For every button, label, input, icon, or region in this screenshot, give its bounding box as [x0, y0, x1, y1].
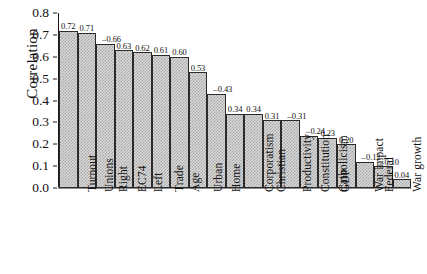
x-label-slot: Urban [189, 190, 208, 274]
x-axis-tick-label: Urban [213, 163, 225, 192]
x-axis-tick-label: GDP [340, 169, 352, 192]
bar-slot: 0.72 [59, 13, 78, 188]
y-axis-tick-mark [53, 100, 57, 101]
bar-value-label: 0.04 [395, 171, 409, 180]
y-axis-tick-mark [53, 13, 57, 14]
x-label-slot: War growth [375, 190, 394, 274]
bar-value-label: 0.31 [265, 112, 279, 121]
y-axis-tick-label: 0.6 [32, 49, 49, 65]
bar[interactable]: 0.53 [189, 72, 208, 188]
bar-value-label: 0.60 [172, 48, 186, 57]
y-axis-tick-mark [53, 78, 57, 79]
x-label-slot: Home [208, 190, 227, 274]
chart-figure: Correlation 0.80.70.60.50.40.30.20.10.0 … [0, 0, 427, 274]
y-axis-tick-mark [53, 34, 57, 35]
x-label-slot: Corporatism [226, 190, 245, 274]
y-axis-tick-mark [53, 144, 57, 145]
bar-slot: 0.43 [207, 13, 226, 188]
x-label-slot: Christian [245, 190, 264, 274]
x-axis-tick-label: Right [118, 166, 130, 192]
x-axis-tick-label: Home [231, 163, 243, 192]
x-label-slot: Age [170, 190, 189, 274]
y-axis-tick-mark [53, 166, 57, 167]
x-axis-tick-label: Federal [383, 157, 395, 192]
bar-value-label: 0.71 [80, 24, 94, 33]
y-axis-tick-labels: 0.80.70.60.50.40.30.20.10.0 [0, 0, 58, 274]
bar-slot: 0.53 [189, 13, 208, 188]
y-axis-tick-label: 0.0 [32, 180, 49, 196]
x-axis-tick-label: Christian [276, 149, 288, 192]
bar-slot: 0.63 [115, 13, 134, 188]
bar-value-label: 0.63 [117, 42, 131, 51]
y-axis-tick-label: 0.1 [32, 158, 49, 174]
x-label-slot: Productivity [263, 190, 282, 274]
y-axis-tick-label: 0.7 [32, 27, 49, 43]
y-axis-tick-label: 0.8 [32, 5, 49, 21]
x-label-slot: Unions [78, 190, 97, 274]
x-axis-tick-label: Unions [104, 158, 116, 192]
bar-value-label: 0.34 [246, 105, 260, 114]
x-label-slot: GDP [319, 190, 338, 274]
bar[interactable]: 0.04 [393, 179, 412, 188]
x-label-slot: Catholicism [301, 190, 320, 274]
x-axis-tick-label: War growth [412, 137, 424, 192]
y-axis-tick-mark [53, 122, 57, 123]
y-axis-tick-label: 0.5 [32, 71, 49, 87]
x-axis-tick-label: Productivity [302, 134, 314, 192]
x-axis-tick-label: Constitution [320, 134, 332, 192]
y-axis-tick-label: 0.4 [32, 93, 49, 109]
bar-value-label: 0.53 [191, 64, 205, 73]
x-axis-tick-label: Trade [175, 165, 187, 192]
x-axis-tick-label: Turnout [87, 155, 99, 192]
x-label-slot: Turnout [59, 190, 78, 274]
x-label-slot: Right [96, 190, 115, 274]
x-label-slot: Cath. culture [393, 190, 412, 274]
bar[interactable]: 0.72 [59, 31, 78, 189]
bar[interactable]: 0.61 [152, 55, 171, 188]
x-axis-tick-label: EC74 [137, 165, 149, 192]
x-label-slot: Constitution [282, 190, 301, 274]
bar[interactable]: 0.12 [356, 162, 375, 188]
x-axis-category-labels: TurnoutUnionsRightEC74LeftTradeAgeUrbanH… [59, 190, 412, 274]
y-axis-tick-mark [53, 188, 57, 189]
bar[interactable]: 0.34 [244, 114, 263, 188]
bar-value-label: 0.61 [154, 46, 168, 55]
bar-slot: 0.62 [133, 13, 152, 188]
bar-slot: 0.12 [356, 13, 375, 188]
bar-value-label: 0.62 [135, 44, 149, 53]
x-label-slot: Left [133, 190, 152, 274]
y-axis-tick-label: 0.2 [32, 136, 49, 152]
y-axis-tick-mark [53, 56, 57, 57]
bar-value-label: 0.72 [61, 22, 75, 31]
bar-value-label: 0.34 [228, 105, 242, 114]
y-axis-tick-label: 0.3 [32, 114, 49, 130]
bar-slot: 0.04 [393, 13, 412, 188]
bar-slot: 0.60 [170, 13, 189, 188]
bar-slot: 0.34 [244, 13, 263, 188]
x-label-slot: War impact [338, 190, 357, 274]
x-label-slot: Trade [152, 190, 171, 274]
x-label-slot: EC74 [115, 190, 134, 274]
bar-slot: 0.61 [152, 13, 171, 188]
x-label-slot: Federal [356, 190, 375, 274]
bar-slot: 0.34 [226, 13, 245, 188]
